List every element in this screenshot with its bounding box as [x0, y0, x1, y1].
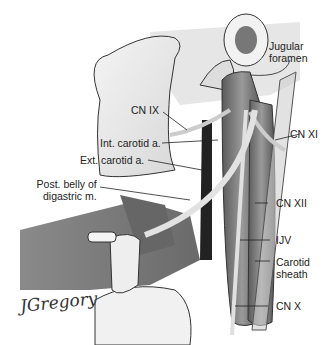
hyoid-bone	[110, 234, 140, 293]
label-line: digastric m.	[36, 190, 97, 202]
label-ijv: IJV	[276, 234, 291, 246]
label-cn-ix: CN IX	[131, 104, 159, 116]
label-post-belly-digastric: Post. belly of digastric m.	[36, 178, 97, 202]
label-cn-xii: CN XII	[276, 197, 307, 209]
jugular-foramen-opening	[235, 26, 257, 54]
larynx	[95, 287, 191, 345]
cn-ix-nerve	[170, 110, 230, 135]
label-ext-carotid: Ext. carotid a.	[80, 154, 144, 166]
label-line: sheath	[276, 268, 310, 280]
label-line: foramen	[269, 52, 308, 64]
label-line: Post. belly of	[36, 178, 97, 190]
label-cn-xi: CN XI	[290, 128, 318, 140]
anatomy-figure: Jugular foramen CN IX CN XI Int. carotid…	[0, 0, 332, 345]
label-line: Carotid	[276, 256, 310, 268]
hyoid-greater-horn	[88, 232, 116, 242]
label-carotid-sheath: Carotid sheath	[276, 256, 310, 280]
label-jugular-foramen: Jugular foramen	[269, 40, 308, 64]
label-line: Jugular	[269, 40, 308, 52]
label-cn-x: CN X	[276, 300, 301, 312]
label-int-carotid: Int. carotid a.	[100, 137, 161, 149]
